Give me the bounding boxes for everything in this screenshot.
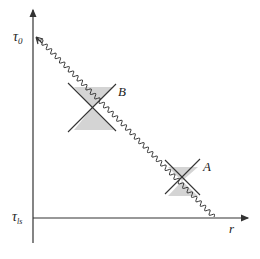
photon-worldline [36, 37, 215, 217]
cone-b-label: B [118, 84, 126, 99]
r-label: r [229, 221, 235, 236]
tau-ls-label: τls [12, 209, 22, 226]
light-cone-a [165, 159, 200, 196]
arrowhead-icon [36, 37, 43, 44]
cone-a-label: A [202, 159, 211, 174]
light-cone-diagram: B A τ0 τls r [0, 0, 260, 259]
tau-0-label: τ0 [13, 29, 23, 46]
